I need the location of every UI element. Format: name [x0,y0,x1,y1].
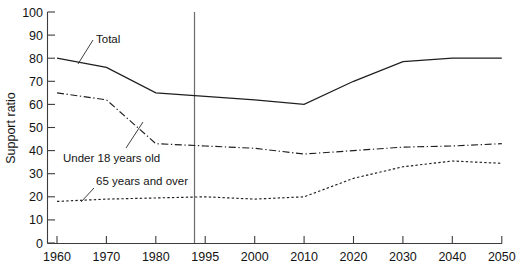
x-tick-label-2050: 2050 [488,250,516,264]
y-axis-ticks [48,12,56,243]
leader-line-total [78,40,93,64]
leader-line-under-18 [126,122,143,148]
annotation-label-under-18: Under 18 years old [63,152,160,164]
y-axis-group: 100 90 80 70 60 50 40 30 20 10 0 Support… [4,6,55,251]
x-axis-ticks [57,236,502,244]
x-tick-label-1970: 1970 [92,250,120,264]
y-tick-label-100: 100 [22,6,43,20]
y-tick-label-70: 70 [29,75,43,89]
chart-svg: 100 90 80 70 60 50 40 30 20 10 0 Support… [0,0,523,271]
y-tick-label-0: 0 [36,237,43,251]
x-tick-label-2000: 2000 [241,250,269,264]
y-axis-tick-labels: 100 90 80 70 60 50 40 30 20 10 0 [22,6,43,251]
series-line-total [57,58,502,104]
x-axis-tick-labels: 1960 1970 1980 1995 2000 2010 2020 2030 … [43,250,516,264]
y-tick-label-90: 90 [29,29,43,43]
annotation-total: Total [78,33,120,64]
x-tick-label-2040: 2040 [438,250,466,264]
y-axis-title: Support ratio [4,92,18,164]
x-tick-label-1980: 1980 [142,250,170,264]
x-tick-label-2010: 2010 [290,250,318,264]
y-tick-label-20: 20 [29,190,43,204]
y-tick-label-50: 50 [29,121,43,135]
annotation-under-18: Under 18 years old [63,122,160,164]
y-tick-label-60: 60 [29,98,43,112]
y-tick-label-30: 30 [29,167,43,181]
support-ratio-chart: 100 90 80 70 60 50 40 30 20 10 0 Support… [0,0,523,271]
x-tick-label-2020: 2020 [340,250,368,264]
leader-line-65-over [81,188,94,202]
y-tick-label-40: 40 [29,144,43,158]
x-tick-label-1960: 1960 [43,250,71,264]
x-tick-label-2030: 2030 [389,250,417,264]
annotation-label-total: Total [96,33,120,45]
x-axis-group: 1960 1970 1980 1995 2000 2010 2020 2030 … [43,236,516,264]
x-tick-label-1995: 1995 [191,250,219,264]
annotation-label-65-over: 65 years and over [96,175,188,187]
y-tick-label-80: 80 [29,52,43,66]
y-tick-label-10: 10 [29,213,43,227]
